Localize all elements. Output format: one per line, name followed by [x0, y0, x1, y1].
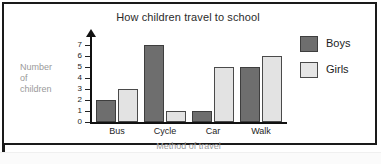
- y-tick-label-0: 0: [68, 118, 82, 126]
- legend-label-boys: Boys: [326, 37, 350, 49]
- bar-cycle-girls: [166, 111, 186, 122]
- bar-group: [192, 45, 236, 122]
- bar-group: [144, 45, 188, 122]
- bar-group: [240, 45, 284, 122]
- y-tick-label-1: 1: [68, 107, 82, 115]
- bar-bus-boys: [96, 100, 116, 122]
- figure-frame: How children travel to school Number of …: [2, 2, 377, 145]
- chart-screenshot: How children travel to school Number of …: [0, 0, 381, 164]
- y-tick-6: [85, 56, 90, 57]
- bar-walk-girls: [262, 56, 282, 122]
- y-tick-label-4: 4: [68, 74, 82, 82]
- x-axis-title: Method of travel: [90, 141, 287, 151]
- y-tick-label-text: 4: [68, 74, 82, 82]
- y-tick-label-5: 5: [68, 63, 82, 71]
- y-tick-0: [85, 122, 90, 123]
- bar-cycle-boys: [144, 45, 164, 122]
- y-tick-label-text: 3: [68, 85, 82, 93]
- y-tick-label-text: 6: [68, 52, 82, 60]
- y-tick-7: [85, 45, 90, 46]
- y-tick-label-6: 6: [68, 52, 82, 60]
- x-axis-line: [90, 122, 287, 124]
- legend-label-girls: Girls: [326, 63, 349, 75]
- boys-swatch-icon: [300, 36, 318, 52]
- page-bottom-strip: [0, 152, 381, 164]
- bar-bus-girls: [118, 89, 138, 122]
- y-tick-3: [85, 89, 90, 90]
- x-tick-label-walk: Walk: [231, 126, 291, 136]
- y-tick-label-text: 1: [68, 107, 82, 115]
- legend-item-boys: Boys: [300, 34, 376, 60]
- y-tick-label-text: 5: [68, 63, 82, 71]
- bar-car-girls: [214, 67, 234, 122]
- plot-area: [92, 45, 287, 122]
- girls-swatch-icon: [300, 62, 318, 78]
- y-tick-label-text: 7: [68, 41, 82, 49]
- y-tick-label-7: 7: [68, 41, 82, 49]
- bar-car-boys: [192, 111, 212, 122]
- y-tick-label-2: 2: [68, 96, 82, 104]
- y-tick-label-3: 3: [68, 85, 82, 93]
- y-tick-label-text: 2: [68, 96, 82, 104]
- y-tick-4: [85, 78, 90, 79]
- y-tick-1: [85, 111, 90, 112]
- bar-walk-boys: [240, 67, 260, 122]
- y-tick-2: [85, 100, 90, 101]
- y-tick-5: [85, 67, 90, 68]
- y-tick-label-text: 0: [68, 118, 82, 126]
- legend-item-girls: Girls: [300, 60, 376, 86]
- chart-title: How children travel to school: [88, 11, 288, 23]
- chart-legend: Boys Girls: [300, 34, 376, 86]
- bar-group: [96, 45, 140, 122]
